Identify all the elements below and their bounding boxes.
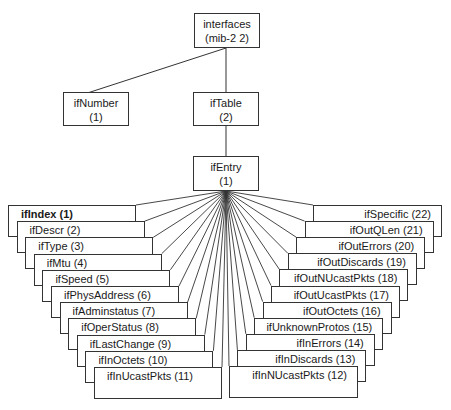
right-entry-box: ifInNUcastPkts (12): [229, 366, 358, 398]
left-entry-box: ifInUcastPkts (11): [94, 367, 222, 399]
node-iftable-name: ifTable: [194, 96, 258, 110]
node-ifnumber: ifNumber (1): [63, 92, 129, 126]
node-interfaces: interfaces (mib-2 2): [194, 13, 260, 48]
node-ifentry-oid: (1): [194, 174, 258, 188]
node-iftable-oid: (2): [194, 110, 258, 124]
node-ifnumber-oid: (1): [64, 110, 128, 124]
node-ifentry-name: ifEntry: [194, 160, 258, 174]
node-iftable: ifTable (2): [193, 92, 259, 126]
node-ifentry: ifEntry (1): [193, 156, 259, 191]
node-ifnumber-name: ifNumber: [64, 96, 128, 110]
node-interfaces-name: interfaces: [195, 17, 259, 31]
node-interfaces-oid: (mib-2 2): [195, 31, 259, 45]
